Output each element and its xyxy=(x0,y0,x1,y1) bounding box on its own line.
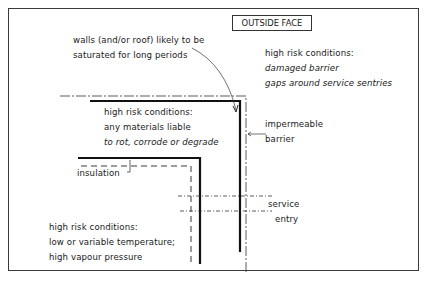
middle-risk-callout: high risk conditions: any materials liab… xyxy=(104,105,219,150)
impermeable-barrier-label: impermeable barrier xyxy=(265,117,323,147)
middle-risk-line-1: any materials liable xyxy=(104,120,219,135)
middle-risk-line-2: to rot, corrode or degrade xyxy=(104,135,219,150)
insulation-label: insulation xyxy=(77,166,120,181)
inside-risk-line-2: high vapour pressure xyxy=(49,250,175,265)
inside-risk-callout: high risk conditions: low or variable te… xyxy=(49,220,175,265)
outside-risk-line-1: damaged barrier xyxy=(265,61,392,76)
entry-label: entry xyxy=(268,212,299,227)
barrier-label: barrier xyxy=(265,132,323,147)
outside-risk-line-2: gaps around service sentries xyxy=(265,76,392,91)
saturated-callout: walls (and/or roof) likely to be saturat… xyxy=(73,33,204,63)
middle-risk-heading: high risk conditions: xyxy=(104,105,219,120)
impermeable-label: impermeable xyxy=(265,117,323,132)
saturated-line-2: saturated for long periods xyxy=(73,48,204,63)
outside-risk-heading: high risk conditions: xyxy=(265,46,392,61)
service-entry-label: service entry xyxy=(268,197,299,227)
service-label: service xyxy=(268,197,299,212)
insulation-leader xyxy=(127,160,130,172)
inside-risk-heading: high risk conditions: xyxy=(49,220,175,235)
inside-risk-line-1: low or variable temperature; xyxy=(49,235,175,250)
outside-risk-callout: high risk conditions: damaged barrier ga… xyxy=(265,46,392,91)
outside-face-label: OUTSIDE FACE xyxy=(232,15,312,31)
saturated-line-1: walls (and/or roof) likely to be xyxy=(73,33,204,48)
